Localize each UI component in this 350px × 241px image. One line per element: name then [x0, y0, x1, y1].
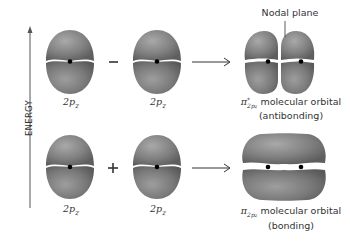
- orbital-label: 2pz: [143, 96, 173, 110]
- orbital-label: 2pz: [56, 203, 86, 217]
- subscript: 2p: [247, 102, 255, 109]
- label-sub: z: [75, 209, 79, 217]
- arrow-bottom: [192, 164, 230, 172]
- orbital-label: 2pz: [143, 203, 173, 217]
- antibonding-mo-label: π*2pz molecular orbital: [232, 96, 350, 109]
- orbital-bonding: [242, 133, 325, 201]
- nodal-plane-label: Nodal plane: [255, 7, 325, 18]
- bonding-mo-label: π2pz molecular orbital: [232, 205, 350, 218]
- mo-label: molecular orbital: [260, 205, 341, 216]
- label-main: 2p: [63, 96, 75, 107]
- antibonding-type: (antibonding): [232, 110, 350, 121]
- mo-label: molecular orbital: [260, 96, 341, 107]
- subscript-sub: z: [255, 103, 258, 109]
- orbital-2pz-bottom-right: [133, 135, 181, 199]
- orbital-antibonding: [245, 21, 315, 94]
- label-main: 2p: [150, 96, 162, 107]
- orbital-2pz-top-left: [46, 30, 94, 94]
- orbital-2pz-top-right: [133, 30, 181, 94]
- label-sub: z: [162, 102, 166, 110]
- arrow-top: [192, 58, 230, 66]
- plus-sign: [108, 163, 118, 173]
- orbital-label: 2pz: [56, 96, 86, 110]
- subscript: 2p: [247, 211, 255, 218]
- label-sub: z: [75, 102, 79, 110]
- label-main: 2p: [150, 203, 162, 214]
- subscript-sub: z: [255, 212, 258, 218]
- label-main: 2p: [63, 203, 75, 214]
- energy-axis-label: ENERGY: [24, 93, 34, 143]
- bonding-type: (bonding): [232, 220, 350, 231]
- label-sub: z: [162, 209, 166, 217]
- orbital-2pz-bottom-left: [46, 135, 94, 199]
